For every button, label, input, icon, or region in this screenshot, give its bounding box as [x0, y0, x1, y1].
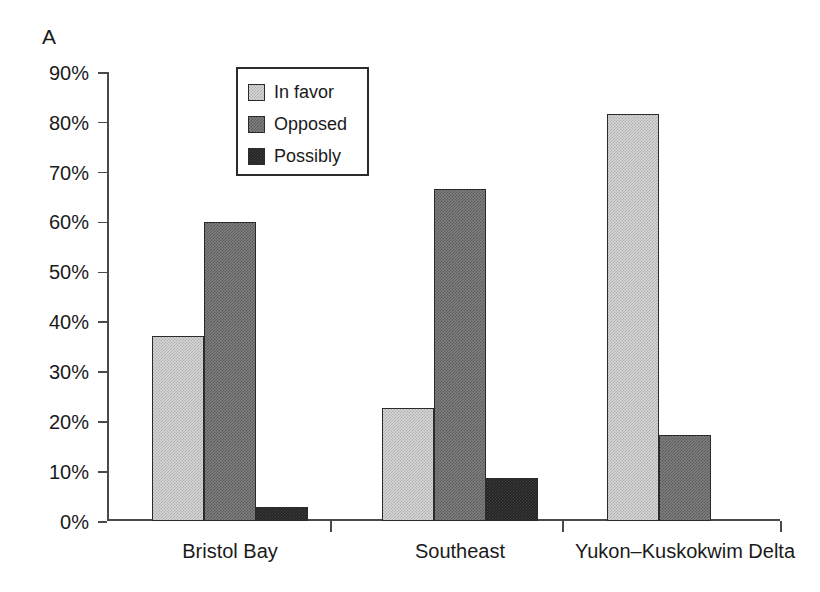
y-axis-line	[107, 72, 109, 521]
legend-box: In favor Opposed Possibly	[236, 67, 369, 176]
y-axis-tick: 20%	[98, 421, 107, 423]
y-axis-tick: 30%	[98, 371, 107, 373]
y-axis-tick: 10%	[98, 471, 107, 473]
y-axis-tick: 50%	[98, 272, 107, 274]
y-axis-tick: 80%	[98, 122, 107, 124]
bar	[434, 189, 486, 521]
y-axis-tick-label: 40%	[49, 311, 89, 334]
y-axis-tick-label: 60%	[49, 211, 89, 234]
legend-item-opposed: Opposed	[248, 108, 367, 140]
y-axis-tick-label: 30%	[49, 361, 89, 384]
bar	[204, 222, 256, 521]
y-axis-tick: 60%	[98, 222, 107, 224]
y-axis-tick-label: 70%	[49, 161, 89, 184]
panel-label: A	[42, 26, 56, 47]
x-axis-category-label: Yukon–Kuskokwim Delta	[575, 540, 795, 563]
bar	[382, 408, 434, 521]
bar	[607, 114, 659, 521]
y-axis-tick-label: 50%	[49, 261, 89, 284]
legend-swatch-opposed-icon	[248, 116, 265, 133]
bar	[152, 336, 204, 521]
legend-item-in-favor: In favor	[248, 76, 367, 108]
y-axis-tick-label: 80%	[49, 111, 89, 134]
y-axis-tick: 70%	[98, 172, 107, 174]
y-axis-tick: 0%	[98, 521, 107, 523]
x-axis-category-label: Bristol Bay	[182, 540, 278, 563]
plot-area: 0%10%20%30%40%50%60%70%80%90%	[107, 72, 780, 521]
x-axis-category-label: Southeast	[415, 540, 505, 563]
x-axis-tick	[562, 521, 564, 532]
bar	[256, 507, 308, 521]
figure-panel-a: A 0%10%20%30%40%50%60%70%80%90% Bristol …	[0, 0, 820, 592]
x-axis-tick	[780, 521, 782, 532]
legend-swatch-in-favor-icon	[248, 84, 265, 101]
y-axis-tick-label: 0%	[60, 510, 89, 533]
y-axis-tick-label: 20%	[49, 411, 89, 434]
legend-label-possibly: Possibly	[274, 146, 341, 167]
legend-label-opposed: Opposed	[274, 114, 347, 135]
bar	[486, 478, 538, 521]
legend-swatch-possibly-icon	[248, 148, 265, 165]
y-axis-tick-label: 90%	[49, 61, 89, 84]
y-axis-tick: 40%	[98, 321, 107, 323]
x-axis-tick	[330, 521, 332, 532]
legend-label-in-favor: In favor	[274, 82, 334, 103]
y-axis-tick-label: 10%	[49, 460, 89, 483]
bar	[659, 435, 711, 521]
legend-item-possibly: Possibly	[248, 140, 367, 172]
y-axis-tick: 90%	[98, 72, 107, 74]
